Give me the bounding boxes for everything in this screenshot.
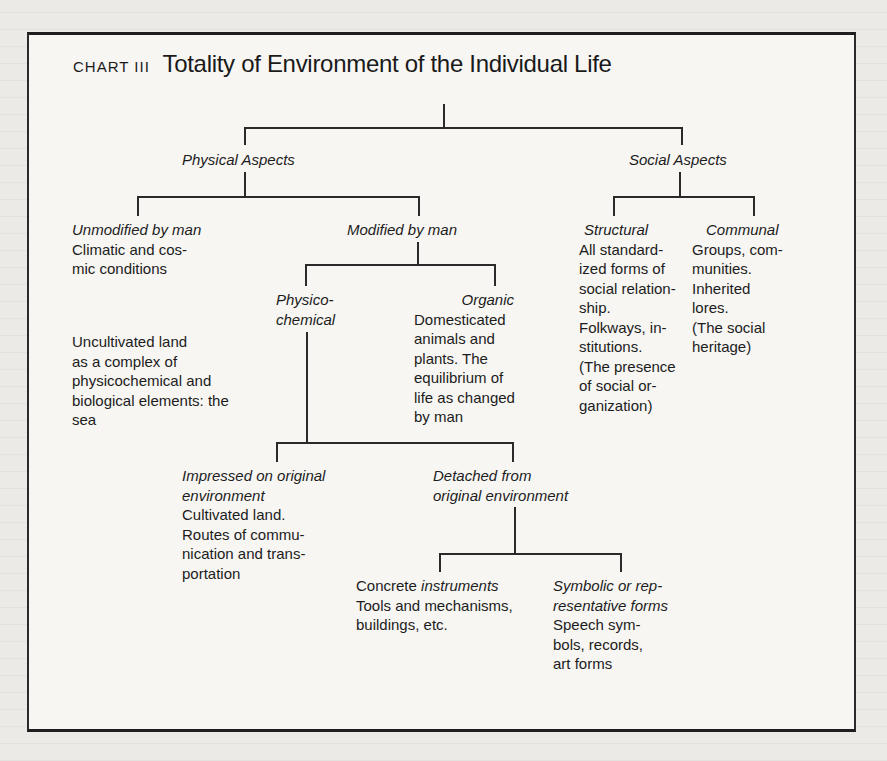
node-text: nication and trans- — [182, 544, 325, 564]
unmodified-drop — [137, 196, 139, 216]
node-text: ganization) — [579, 396, 676, 416]
node-text: All standard- — [579, 240, 676, 260]
chart-label: CHART III — [73, 58, 150, 75]
node-heading: Concrete instruments — [356, 576, 513, 596]
node-text: Climatic and cos- — [72, 240, 201, 260]
node-modified-by-man: Modified by man — [347, 220, 457, 240]
node-heading: Physical Aspects — [182, 151, 295, 168]
node-text: Routes of commu- — [182, 525, 325, 545]
node-text: Inherited — [692, 279, 783, 299]
root-stem — [443, 104, 445, 128]
physical-drop — [244, 127, 246, 145]
node-symbolic-representative-forms: Symbolic or rep- resentative forms Speec… — [553, 576, 668, 674]
root-branch — [244, 127, 682, 129]
node-communal: Communal Groups, com- munities. Inherite… — [692, 220, 783, 357]
organic-drop — [494, 264, 496, 286]
node-text: heritage) — [692, 337, 783, 357]
node-text: (The social — [692, 318, 783, 338]
node-text: Speech sym- — [553, 615, 668, 635]
node-text: physicochemical and — [72, 371, 229, 391]
node-text: stitutions. — [579, 337, 676, 357]
node-heading: Organic — [414, 290, 514, 310]
node-heading: Structural — [579, 220, 676, 240]
detached-branch — [439, 553, 621, 555]
chart-title: CHART III Totality of Environment of the… — [73, 50, 612, 78]
node-heading: Symbolic or rep- — [553, 576, 668, 596]
node-concrete-instruments: Concrete instruments Tools and mechanism… — [356, 576, 513, 635]
social-drop — [681, 127, 683, 145]
node-text: animals and — [414, 329, 514, 349]
heading-italic-part: instruments — [421, 577, 499, 594]
node-heading: Modified by man — [347, 221, 457, 238]
social-branch — [613, 196, 754, 198]
node-text: sea — [72, 410, 229, 430]
detached-stem — [514, 507, 516, 553]
physicochemical-stem — [306, 332, 308, 443]
node-organic: Organic Domesticated animals and plants.… — [414, 290, 514, 427]
node-text: plants. The — [414, 349, 514, 369]
node-text: equilibrium of — [414, 368, 514, 388]
symbolic-drop — [620, 553, 622, 572]
node-text: Groups, com- — [692, 240, 783, 260]
node-text: Folkways, in- — [579, 318, 676, 338]
node-structural: Structural All standard- ized forms of s… — [579, 220, 676, 415]
node-text: Cultivated land. — [182, 505, 325, 525]
node-text: by man — [414, 407, 514, 427]
node-physicochemical: Physico- chemical — [276, 290, 335, 329]
social-stem — [679, 172, 681, 196]
physicochemical-branch — [276, 442, 513, 444]
chart-title-text: Totality of Environment of the Individua… — [162, 50, 611, 77]
heading-roman-part: Concrete — [356, 577, 417, 594]
node-text: lores. — [692, 298, 783, 318]
node-heading: Detached from — [433, 466, 568, 486]
node-heading: Impressed on original — [182, 466, 325, 486]
node-unmodified-by-man: Unmodified by man Climatic and cos- mic … — [72, 220, 201, 279]
node-text: mic conditions — [72, 259, 201, 279]
node-physical-aspects: Physical Aspects — [182, 150, 295, 170]
node-heading: Unmodified by man — [72, 220, 201, 240]
node-heading: Communal — [692, 220, 783, 240]
node-heading: Social Aspects — [629, 151, 727, 168]
modified-drop — [418, 196, 420, 216]
node-text: biological elements: the — [72, 391, 229, 411]
node-text: portation — [182, 564, 325, 584]
node-text: art forms — [553, 654, 668, 674]
structural-drop — [613, 196, 615, 216]
node-impressed-on-original-environment: Impressed on original environment Cultiv… — [182, 466, 325, 583]
node-text: ized forms of — [579, 259, 676, 279]
concrete-drop — [439, 553, 441, 572]
communal-drop — [753, 196, 755, 216]
node-text: buildings, etc. — [356, 615, 513, 635]
node-text: as a complex of — [72, 352, 229, 372]
node-text: Domesticated — [414, 310, 514, 330]
node-social-aspects: Social Aspects — [629, 150, 727, 170]
node-text: of social or- — [579, 376, 676, 396]
node-text: (The presence — [579, 357, 676, 377]
node-heading: environment — [182, 486, 325, 506]
node-text: bols, records, — [553, 635, 668, 655]
physicochemical-drop — [305, 264, 307, 286]
modified-branch — [305, 264, 495, 266]
node-text: Tools and mechanisms, — [356, 596, 513, 616]
node-text: Uncultivated land — [72, 332, 229, 352]
node-text: munities. — [692, 259, 783, 279]
node-text: ship. — [579, 298, 676, 318]
node-detached-from-original-environment: Detached from original environment — [433, 466, 568, 505]
node-heading: Physico- — [276, 290, 335, 310]
node-text: life as changed — [414, 388, 514, 408]
node-heading: resentative forms — [553, 596, 668, 616]
detached-drop — [512, 442, 514, 462]
impressed-drop — [276, 442, 278, 462]
node-heading: chemical — [276, 310, 335, 330]
node-uncultivated-land: Uncultivated land as a complex of physic… — [72, 332, 229, 430]
node-heading: original environment — [433, 486, 568, 506]
physical-branch — [137, 196, 419, 198]
modified-stem — [417, 242, 419, 264]
node-text: social relation- — [579, 279, 676, 299]
physical-stem — [244, 172, 246, 196]
